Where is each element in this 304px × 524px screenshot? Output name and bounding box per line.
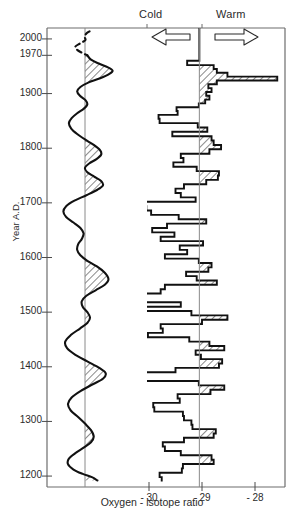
warm-direction-label: Warm: [216, 8, 246, 20]
y-tick-label: 1900: [0, 87, 42, 98]
cold-direction-label: Cold: [139, 8, 162, 20]
left-arrow-icon: [152, 29, 190, 45]
y-tick-label: 1400: [0, 360, 42, 371]
y-tick-label: 1700: [0, 196, 42, 207]
plot-canvas: [0, 0, 304, 524]
y-tick-label: 1500: [0, 305, 42, 316]
y-tick-label: 1300: [0, 414, 42, 425]
isotope-step-histogram-panel: [127, 28, 278, 487]
x-tick-label: - 28: [235, 492, 275, 503]
x-tick-label: - 29: [182, 492, 222, 503]
y-tick-label: 2000: [0, 32, 42, 43]
extrapolated-curve-line: [75, 31, 89, 55]
y-tick-label: 1800: [0, 141, 42, 152]
x-tick-label: - 30: [129, 492, 169, 503]
y-tick-label: 1970: [0, 48, 42, 59]
right-arrow-icon: [215, 29, 258, 45]
oxygen-isotope-figure: Cold Warm Year A.D. Oxygen - isotope rat…: [0, 0, 304, 524]
smoothed-curve-panel: [63, 28, 112, 487]
y-tick-label: 1600: [0, 251, 42, 262]
y-tick-label: 1200: [0, 469, 42, 480]
